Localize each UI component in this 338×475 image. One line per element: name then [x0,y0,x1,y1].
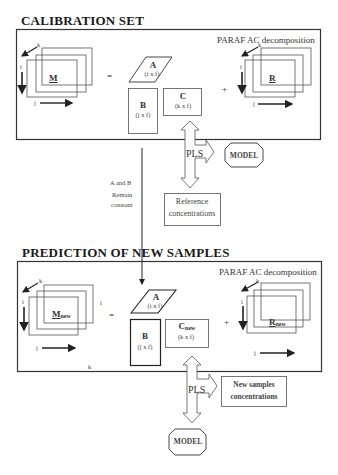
matrix-cnew-sub: new [185,325,195,331]
model-new-label: MODEL [174,438,202,446]
prediction-title: PREDICTION OF NEW SAMPLES [22,246,230,259]
mnew-axis-i-label: i [22,299,24,306]
rnew-axis-j-label: j [254,350,256,357]
mnew-axis-j-label: j [36,345,38,352]
matrix-c-dims: (k x f) [175,103,191,110]
calibration-panel [17,30,321,140]
m-axis-i-label: i [20,64,22,71]
matrix-c-label: C [180,92,187,101]
residual-r-label: R [269,74,276,83]
residual-rnew-label: Rnew [269,318,286,327]
connector-line2: Remain [112,192,132,199]
matrix-a-label: A [150,61,157,70]
calibration-title: CALIBRATION SET [21,14,144,27]
r-axis-j-label: j [253,101,255,108]
matrix-b-new-label: B [142,332,148,341]
matrix-b-dims: (j x f) [136,112,151,119]
tensor-r-stack [245,48,311,97]
reference-line2: concentrations [169,210,216,218]
matrix-cnew-label: Cnew [179,322,196,331]
reference-line1: Reference [176,198,208,206]
r-axis-i-label: i [240,64,242,71]
tensor-mnew-sub: new [61,313,71,319]
pls-label: PLS [186,149,203,159]
matrix-a-new-label: A [153,293,160,302]
mnew-axis-k-label: k [39,278,42,285]
matrix-a-new-dims: (i x f) [148,303,163,310]
matrix-b-label: B [140,101,146,110]
plus-sign-new: + [224,318,229,327]
mnew-extra-k-label: k [88,364,91,371]
matrix-b-new-dims: (j x f) [138,344,153,351]
r-axis-k-label: k [258,42,261,49]
matrix-a-dims: (i x f) [145,71,160,78]
pls-new-label: PLS [188,385,205,395]
diagram-graphics [0,0,338,475]
mnew-extra-i-label: i [100,300,102,307]
mnew-axis-k-arrow [23,283,38,292]
m-axis-j-label: j [34,100,36,107]
output-line1: New samples [233,381,274,389]
axis-k-arrow [22,47,37,56]
connector-line3: constant [111,202,133,209]
model-label: MODEL [230,152,258,160]
plus-sign: + [222,85,227,94]
rnew-axis-i-label: i [241,299,243,306]
matrix-cnew-dims: (k x f) [178,334,194,341]
equals-sign-new: = [109,311,114,320]
residual-rnew-sub: new [276,321,286,327]
output-line2: concentrations [230,393,277,401]
tensor-mnew-main: M [52,309,61,319]
tensor-m-label: M [49,74,58,83]
prediction-method-label: PARAF AC decomposition [219,268,317,277]
calibration-method-label: PARAF AC decomposition [217,36,315,45]
rnew-axis-k-label: k [256,278,259,285]
m-axis-k-label: k [37,42,40,49]
tensor-m-stack [27,48,92,97]
equals-sign: = [107,72,112,81]
connector-line1: A and B [110,180,131,187]
tensor-mnew-label: Mnew [52,310,71,319]
